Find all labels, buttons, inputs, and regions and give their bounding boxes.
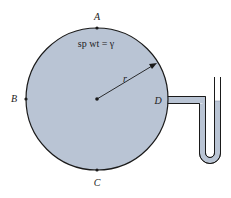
point-c-dot — [95, 168, 98, 171]
point-b-label: B — [11, 93, 17, 104]
point-a-label: A — [93, 11, 101, 22]
point-b-dot — [24, 97, 27, 100]
specific-weight-equation: sp wt = γ — [78, 38, 115, 49]
center-point — [95, 97, 99, 101]
point-a-dot — [95, 26, 98, 29]
point-c-label: C — [94, 177, 101, 188]
connecting-pipe — [166, 77, 221, 164]
point-d-label: D — [153, 95, 162, 106]
radius-label: r — [123, 73, 127, 84]
tank-diagram: A B C D r sp wt = γ — [0, 0, 231, 198]
